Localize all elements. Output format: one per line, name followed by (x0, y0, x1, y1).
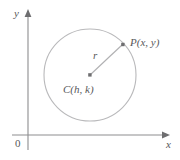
circle-equation-figure: y x 0 r C(h, k) P(x, y) (0, 0, 180, 160)
center-point-marker (88, 73, 91, 76)
radius-label: r (93, 50, 97, 61)
x-axis-label: x (166, 139, 171, 150)
point-label: P(x, y) (130, 37, 159, 48)
circle-point-marker (121, 43, 124, 46)
center-label: C(h, k) (63, 84, 94, 95)
figure-canvas (0, 0, 180, 160)
origin-label: 0 (15, 138, 21, 149)
y-axis-arrow-icon (25, 9, 32, 17)
y-axis-label: y (14, 8, 19, 19)
